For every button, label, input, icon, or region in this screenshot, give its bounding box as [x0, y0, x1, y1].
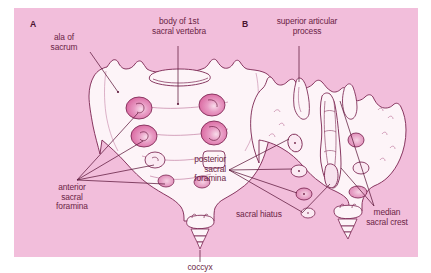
- leader-dot-ala: [117, 91, 119, 93]
- figure-root: A ala of sacrum body of 1st sacral verte…: [0, 0, 431, 273]
- posterior-foramen-right-1: [348, 133, 364, 147]
- anterior-foramen-right-1: [199, 94, 225, 116]
- posterior-foramen-left-4-dot: [307, 212, 309, 214]
- leader-dot-s1-body: [177, 103, 179, 105]
- anterior-foramen-left-2: [131, 125, 157, 147]
- sacral-promontory-line: [149, 69, 210, 86]
- figure-panel: A ala of sacrum body of 1st sacral verte…: [14, 8, 418, 257]
- anterior-foramen-right-4: [194, 176, 210, 188]
- coccyx-posterior-tip: [344, 232, 351, 239]
- anterior-foramen-right-3: [203, 151, 225, 168]
- anterior-foramen-left-3: [145, 152, 165, 168]
- anatomy-illustration: [14, 8, 418, 257]
- coccyx-posterior-segment-1: [334, 205, 362, 218]
- superior-articular-process-left: [294, 78, 310, 119]
- anterior-foramen-left-1: [126, 97, 152, 119]
- coccyx-posterior-segment-3: [341, 226, 354, 232]
- posterior-foramen-left-1-dot: [294, 142, 296, 144]
- superior-articular-process-right: [343, 84, 358, 119]
- panel-letter-b: B: [242, 19, 248, 29]
- coccyx-segment-2: [191, 229, 209, 236]
- coccyx-tip: [197, 242, 203, 249]
- sacrum-anterior-group: [77, 46, 277, 262]
- coccyx-segment-3: [194, 236, 206, 242]
- coccyx-segment-1: [187, 215, 214, 228]
- coccyx-posterior-segment-2: [338, 219, 357, 226]
- sacral-hiatus: [325, 164, 339, 188]
- posterior-foramen-left-2-dot: [298, 170, 300, 172]
- posterior-foramen-right-2: [353, 162, 369, 174]
- posterior-foramen-left-3-dot: [303, 193, 305, 195]
- anterior-foramen-right-2: [201, 121, 227, 145]
- panel-letter-a: A: [30, 19, 36, 29]
- anterior-foramen-left-4: [158, 175, 174, 187]
- label-coccyx: coccyx: [164, 263, 236, 273]
